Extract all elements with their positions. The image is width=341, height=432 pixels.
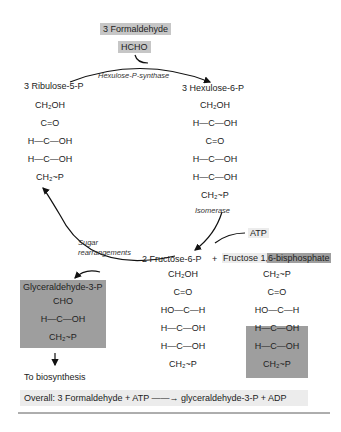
- ribulose-label: 3 Ribulose-5-P: [24, 81, 84, 91]
- hcho-label: HCHO: [118, 41, 151, 53]
- overall-equation: Overall: 3 Formaldehyde + ATP ——→ glycer…: [20, 390, 308, 406]
- hexulose-structure: CH₂OH H—C—OH C=O H—C—OH H—C—OH CH₂~P: [183, 96, 247, 204]
- fbp-structure: CH₂~P C=O HO—C—H H—C—OH H—C—OH CH₂~P: [242, 265, 312, 373]
- rearrangements-label: rearrangements: [78, 248, 131, 257]
- g3p-label: Glyceraldehyde-3-P: [23, 282, 103, 292]
- hexulose-label: 3 Hexulose-6-P: [182, 83, 244, 93]
- enzyme-isomerase: Isomerase: [195, 206, 230, 215]
- enzyme-synthase: Hexulose-P-synthase: [98, 71, 169, 80]
- fructose6p-structure: CH₂OH C=O HO—C—H H—C—OH H—C—OH CH₂~P: [148, 265, 218, 373]
- fbp-label-b: 6-bisphosphate: [267, 253, 331, 263]
- formaldehyde-label: 3 Formaldehyde: [100, 23, 171, 35]
- g3p-box: Glyceraldehyde-3-P CHO H—C—OH CH₂~P: [20, 280, 106, 348]
- ribulose-structure: CH₂OH C=O H—C—OH H—C—OH CH₂~P: [20, 96, 80, 186]
- fbp-label-a: Fructose 1,: [222, 253, 269, 263]
- fructose6p-label: 2 Fructose-6-P: [142, 254, 202, 264]
- sugar-label: Sugar: [78, 238, 98, 247]
- atp-label: ATP: [248, 228, 269, 238]
- g3p-structure: CHO H—C—OH CH₂~P: [28, 292, 98, 346]
- plus-sign: +: [212, 254, 217, 264]
- to-biosynthesis: To biosynthesis: [24, 372, 86, 382]
